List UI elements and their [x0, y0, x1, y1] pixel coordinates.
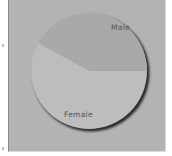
slice-label-male: Male: [111, 23, 130, 32]
slice-label-female: Female: [64, 110, 93, 119]
pie-chart: Male Female: [0, 0, 172, 156]
